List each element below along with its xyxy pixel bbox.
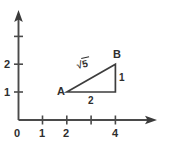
- horizontal-leg-label: 2: [88, 96, 94, 106]
- y-axis-label-1: 1: [4, 87, 10, 98]
- x-axis-label-0: 0: [14, 128, 20, 139]
- x-axis-label-4: 4: [112, 128, 118, 139]
- x-axis-label-2: 2: [63, 128, 69, 139]
- x-axis-label-1: 1: [39, 128, 45, 139]
- triangle-shape: [67, 64, 116, 92]
- y-axis-label-2: 2: [4, 59, 10, 70]
- vertex-label-a: A: [57, 86, 65, 97]
- coordinate-figure: 0 1 2 4 1 2 A B √5 1 2: [0, 0, 171, 149]
- vertical-leg-label: 1: [119, 73, 125, 83]
- vertex-label-b: B: [113, 49, 121, 60]
- figure-canvas: [0, 0, 171, 149]
